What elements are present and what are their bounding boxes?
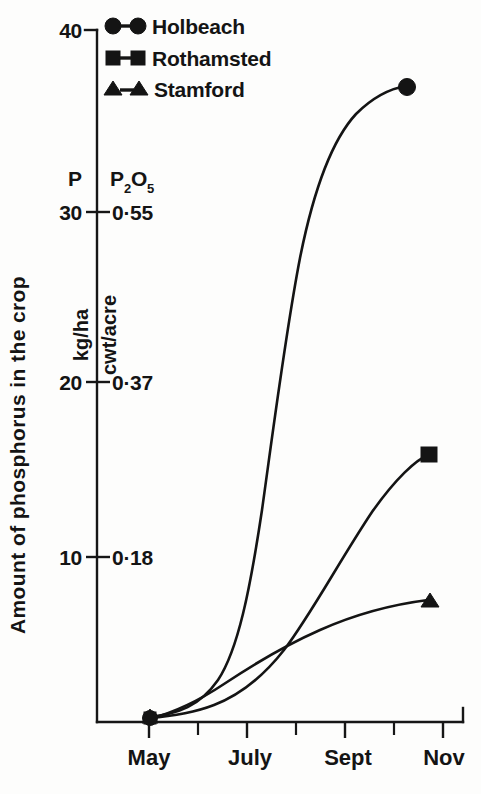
unit-scale-group: kg/ha cwt/acre [70, 295, 120, 375]
y-right-tick-labels: 0·55 0·37 0·18 [112, 201, 153, 569]
x-axis-labels: May July Sept Nov [128, 745, 466, 770]
y-left-tick-label-40: 40 [59, 19, 82, 42]
series-line-holbeach [149, 86, 406, 717]
x-label-nov: Nov [423, 745, 465, 770]
legend-square-icon-right [131, 51, 145, 65]
y-left-tick-label-10: 10 [59, 546, 82, 569]
series-line-rothamsted [149, 455, 428, 718]
legend-item-rothamsted: Rothamsted [106, 47, 271, 70]
y-right-tick-label-055: 0·55 [112, 201, 153, 224]
endpoint-marker-rothamsted [421, 447, 437, 462]
legend-triangle-icon-right [130, 81, 148, 95]
right-unit-scale-label: cwt/acre [98, 295, 120, 375]
series-line-stamford [149, 600, 428, 719]
right-unit-header: P 2 O 5 [110, 167, 154, 196]
x-label-may: May [128, 745, 172, 770]
legend-label-stamford: Stamford [154, 78, 245, 101]
x-tick-marks [149, 722, 443, 738]
y-left-tick-labels: 40 30 20 10 [59, 19, 82, 569]
right-unit-header-P: P [110, 167, 124, 190]
left-unit-scale-label: kg/ha [70, 308, 92, 361]
legend-label-holbeach: Holbeach [152, 15, 245, 38]
y-left-tick-label-30: 30 [59, 201, 82, 224]
origin-marker-cluster [142, 709, 158, 726]
right-unit-header-sub-5: 5 [147, 181, 154, 196]
y-right-tick-label-018: 0·18 [112, 546, 153, 569]
left-unit-header: P [68, 167, 82, 190]
legend: Holbeach Rothamsted Stamford [104, 15, 271, 101]
legend-item-holbeach: Holbeach [105, 15, 245, 38]
legend-item-stamford: Stamford [104, 78, 245, 101]
right-unit-header-O: O [131, 167, 147, 190]
x-label-sept: Sept [324, 745, 372, 770]
data-series-group [142, 79, 439, 726]
unit-header-group: P P 2 O 5 [68, 167, 154, 196]
chart-figure: 40 30 20 10 0·55 0·37 0·18 P P 2 O 5 kg/… [0, 0, 481, 794]
legend-square-icon-left [106, 51, 120, 65]
y-axis-title: Amount of phosphorus in the crop [6, 276, 29, 634]
legend-triangle-icon-left [104, 81, 122, 95]
legend-circle-icon-right [130, 18, 146, 34]
endpoint-marker-holbeach [399, 79, 416, 96]
line-chart-svg: 40 30 20 10 0·55 0·37 0·18 P P 2 O 5 kg/… [0, 0, 481, 794]
x-label-july: July [228, 745, 273, 770]
y-left-tick-label-20: 20 [59, 371, 82, 394]
legend-label-rothamsted: Rothamsted [152, 47, 271, 70]
